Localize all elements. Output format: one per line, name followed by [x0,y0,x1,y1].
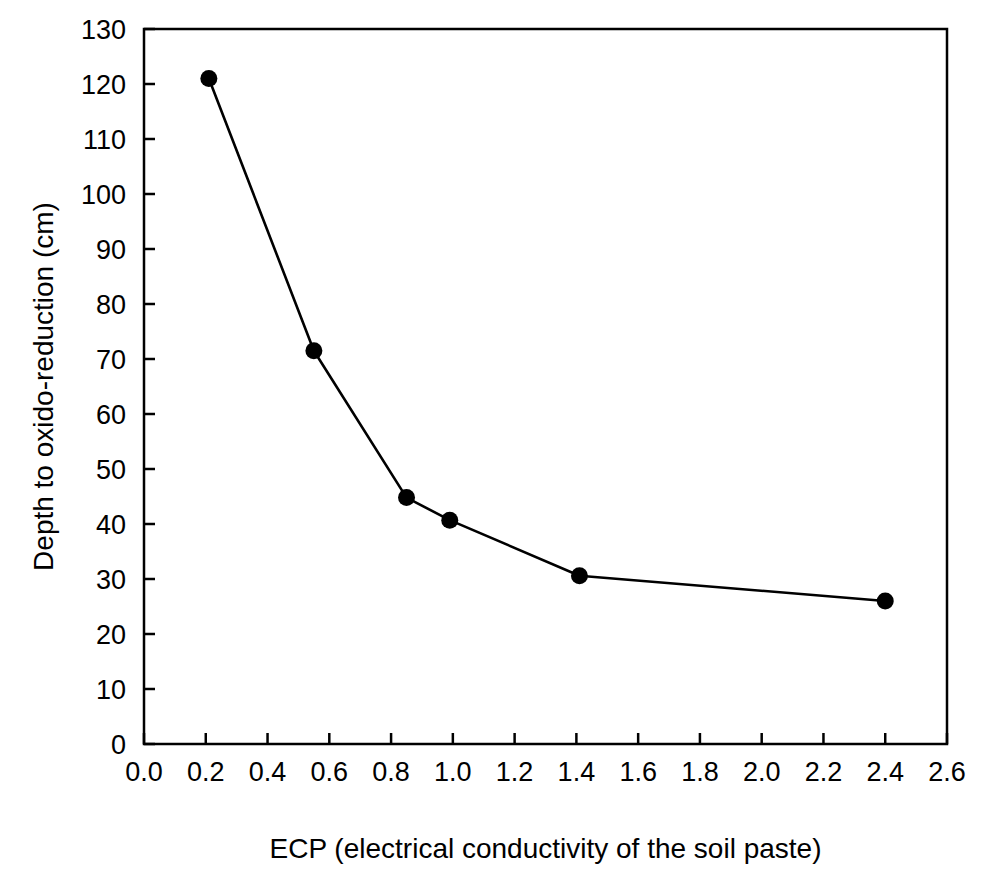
chart-figure: 01020304050607080901001101201300.00.20.4… [0,0,982,895]
y-axis-title: Depth to oxido-reduction (cm) [28,202,59,571]
x-axis-tick-label: 0.8 [372,757,410,787]
x-axis-title: ECP (electrical conductivity of the soil… [270,833,822,864]
data-point-marker [200,70,217,87]
plot-frame [144,29,947,744]
data-point-marker [305,342,322,359]
y-axis-tick-label: 20 [96,620,126,650]
y-axis-tick-label: 70 [96,345,126,375]
y-axis-tick-label: 60 [96,400,126,430]
x-axis-tick-label: 1.8 [681,757,719,787]
x-axis-tick-label: 0.6 [311,757,349,787]
y-axis-tick-label: 50 [96,455,126,485]
y-axis-tick-label: 110 [83,125,126,155]
x-axis-tick-label: 0.4 [249,757,287,787]
y-axis-tick-label: 40 [96,510,126,540]
x-axis-tick-label: 0.0 [125,757,163,787]
y-axis-tick-label: 80 [96,290,126,320]
data-point-marker [441,512,458,529]
line-chart: 01020304050607080901001101201300.00.20.4… [0,0,982,895]
x-axis-tick-label: 0.2 [187,757,225,787]
x-axis-tick-label: 1.0 [434,757,472,787]
y-axis-tick-label: 30 [96,565,126,595]
data-point-marker [877,593,894,610]
x-axis-tick-label: 1.2 [496,757,534,787]
y-axis-tick-label: 90 [96,235,126,265]
x-axis-tick-label: 1.6 [619,757,657,787]
x-axis-tick-label: 2.2 [805,757,843,787]
x-axis-tick-label: 2.4 [866,757,904,787]
y-axis-tick-label: 120 [81,70,126,100]
y-axis-tick-label: 10 [96,675,126,705]
y-axis-tick-label: 100 [81,180,126,210]
data-point-marker [571,567,588,584]
data-point-marker [398,489,415,506]
data-line [209,79,885,602]
y-axis-tick-label: 130 [81,15,126,45]
x-axis-tick-label: 1.4 [558,757,596,787]
x-axis-tick-label: 2.0 [743,757,781,787]
y-axis-tick-label: 0 [111,730,126,760]
x-axis-tick-label: 2.6 [928,757,966,787]
